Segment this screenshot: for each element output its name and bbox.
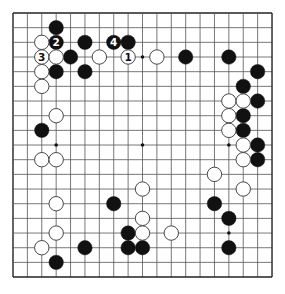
white-stone <box>49 226 63 240</box>
black-stone <box>135 241 149 255</box>
white-stone <box>49 197 63 211</box>
move-number-label: 2 <box>53 36 60 48</box>
black-stone <box>121 241 135 255</box>
white-stone <box>135 211 149 225</box>
black-stone-disc <box>78 35 92 49</box>
black-stone: 4 <box>107 35 121 49</box>
black-stone-disc <box>250 153 264 167</box>
black-stone-disc <box>49 64 63 78</box>
star-point <box>227 231 231 235</box>
black-stone-disc <box>78 241 92 255</box>
white-stone <box>236 94 250 108</box>
black-stone-disc <box>107 197 121 211</box>
white-stone <box>236 182 250 196</box>
white-stone <box>150 50 164 64</box>
white-stone <box>236 138 250 152</box>
move-number-label: 4 <box>110 36 117 48</box>
white-stone: 1 <box>121 50 135 64</box>
white-stone <box>222 123 236 137</box>
black-stone <box>178 50 192 64</box>
black-stone <box>236 123 250 137</box>
black-stone <box>49 64 63 78</box>
black-stone <box>121 35 135 49</box>
white-stone-disc <box>222 123 236 137</box>
black-stone-disc <box>49 20 63 34</box>
black-stone: 2 <box>49 35 63 49</box>
black-stone-disc <box>63 50 77 64</box>
black-stone <box>222 241 236 255</box>
black-stone-disc <box>135 241 149 255</box>
white-stone-disc <box>35 35 49 49</box>
black-stone <box>250 138 264 152</box>
white-stone-disc <box>35 153 49 167</box>
white-stone <box>92 50 106 64</box>
black-stone <box>222 50 236 64</box>
black-stone <box>250 64 264 78</box>
white-stone-disc <box>135 226 149 240</box>
white-stone-disc <box>222 94 236 108</box>
white-stone <box>35 79 49 93</box>
black-stone <box>236 108 250 122</box>
white-stone-disc <box>49 197 63 211</box>
white-stone-disc <box>49 50 63 64</box>
black-stone-disc <box>250 64 264 78</box>
black-stone-disc <box>49 255 63 269</box>
black-stone-disc <box>236 108 250 122</box>
black-stone-disc <box>121 226 135 240</box>
white-stone-disc <box>49 108 63 122</box>
star-point <box>227 143 231 147</box>
black-stone-disc <box>250 94 264 108</box>
white-stone-disc <box>236 182 250 196</box>
black-stone-disc <box>178 50 192 64</box>
black-stone <box>63 50 77 64</box>
black-stone <box>207 197 221 211</box>
black-stone <box>78 241 92 255</box>
white-stone-disc <box>236 138 250 152</box>
go-board-diagram: 2431 <box>0 0 285 294</box>
black-stone <box>250 94 264 108</box>
white-stone-disc <box>164 226 178 240</box>
white-stone-disc <box>49 153 63 167</box>
black-stone-disc <box>250 138 264 152</box>
black-stone <box>78 35 92 49</box>
white-stone <box>207 167 221 181</box>
black-stone <box>49 20 63 34</box>
white-stone: 3 <box>35 50 49 64</box>
white-stone <box>49 153 63 167</box>
black-stone <box>250 153 264 167</box>
white-stone <box>164 226 178 240</box>
black-stone-disc <box>222 241 236 255</box>
go-board-svg: 2431 <box>0 0 285 294</box>
black-stone <box>222 211 236 225</box>
white-stone <box>35 153 49 167</box>
white-stone <box>236 153 250 167</box>
white-stone <box>49 50 63 64</box>
white-stone-disc <box>236 94 250 108</box>
white-stone <box>222 108 236 122</box>
white-stone <box>222 94 236 108</box>
black-stone-disc <box>222 50 236 64</box>
black-stone <box>78 64 92 78</box>
star-point <box>141 143 145 147</box>
white-stone-disc <box>35 79 49 93</box>
move-number-label: 1 <box>124 51 131 63</box>
white-stone-disc <box>49 226 63 240</box>
white-stone-disc <box>207 167 221 181</box>
white-stone-disc <box>135 182 149 196</box>
black-stone <box>121 226 135 240</box>
white-stone-disc <box>150 50 164 64</box>
white-stone <box>49 108 63 122</box>
white-stone-disc <box>92 50 106 64</box>
black-stone-disc <box>78 64 92 78</box>
black-stone <box>236 79 250 93</box>
white-stone-disc <box>35 241 49 255</box>
black-stone-disc <box>207 197 221 211</box>
move-number-label: 3 <box>38 51 45 63</box>
star-point <box>54 143 58 147</box>
black-stone-disc <box>121 241 135 255</box>
black-stone-disc <box>121 35 135 49</box>
white-stone <box>135 182 149 196</box>
white-stone-disc <box>35 64 49 78</box>
star-point <box>141 55 145 59</box>
white-stone <box>35 35 49 49</box>
